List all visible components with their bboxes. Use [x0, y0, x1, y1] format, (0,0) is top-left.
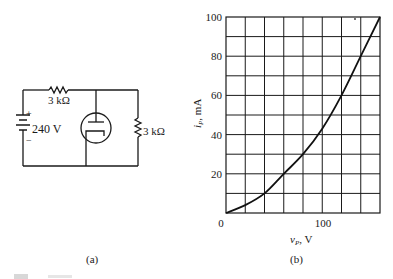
- series-resistor-label: 3 kΩ: [48, 94, 70, 106]
- y-tick-100: 100: [206, 11, 223, 23]
- x-tick-0: 0: [218, 217, 224, 229]
- y-tick-80: 80: [211, 50, 223, 62]
- x-axis-unit: , V: [299, 233, 312, 245]
- panel-label-a: (a): [86, 253, 99, 266]
- y-axis-label: iP, mA: [191, 99, 205, 128]
- chart-tick-labels: 100 80 60 40 20 0 100: [206, 11, 332, 229]
- stray-dot: [354, 18, 356, 20]
- source-minus-label: −: [26, 135, 32, 146]
- y-axis-unit: , mA: [191, 99, 203, 121]
- svg-text:vP, V: vP, V: [290, 233, 312, 247]
- shunt-resistor-icon: [135, 118, 141, 137]
- x-tick-100: 100: [315, 217, 332, 229]
- y-tick-40: 40: [211, 129, 223, 141]
- tube-cathode: [86, 131, 104, 166]
- shunt-resistor-label: 3 kΩ: [143, 125, 165, 137]
- svg-text:iP, mA: iP, mA: [191, 99, 205, 128]
- y-tick-20: 20: [211, 168, 223, 180]
- source-voltage-label: 240 V: [32, 122, 62, 136]
- x-axis-label: vP, V: [290, 233, 312, 247]
- caption-fragment: [14, 274, 28, 279]
- panel-label-b: (b): [290, 253, 303, 266]
- source-plus-label: +: [26, 108, 32, 119]
- caption-fragment-2: [48, 275, 72, 278]
- series-resistor-icon: [49, 87, 68, 93]
- y-tick-60: 60: [211, 89, 223, 101]
- figure-canvas: 3 kΩ + 240 V − 3 kΩ (a) 100 80 60 40 20 …: [0, 0, 393, 279]
- chart-grid: [226, 17, 380, 213]
